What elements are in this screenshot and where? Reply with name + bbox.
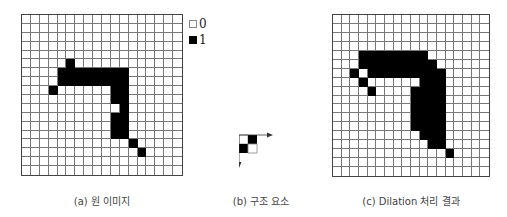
pixel-cell: [146, 59, 155, 68]
pixel-cell: [164, 148, 173, 157]
pixel-cell: [58, 131, 67, 140]
pixel-cell: [31, 59, 40, 68]
pixel-cell: [472, 69, 481, 78]
pixel-cell: [49, 24, 58, 33]
pixel-cell: [40, 42, 49, 51]
pixel-cell: [368, 33, 377, 42]
pixel-cell: [394, 167, 403, 176]
pixel-cell: [49, 42, 58, 51]
pixel-cell: [66, 113, 75, 122]
pixel-cell: [173, 68, 182, 77]
pixel-cell: [359, 87, 368, 96]
pixel-cell: [463, 113, 472, 122]
pixel-cell: [111, 104, 120, 113]
pixel-cell: [31, 104, 40, 113]
pixel-cell: [173, 51, 182, 60]
pixel-cell: [420, 87, 429, 96]
pixel-cell: [58, 15, 67, 24]
pixel-cell: [472, 158, 481, 167]
pixel-cell: [376, 104, 385, 113]
pixel-cell: [342, 149, 351, 158]
pixel-cell: [376, 87, 385, 96]
pixel-cell: [333, 131, 342, 140]
pixel-cell: [437, 149, 446, 158]
pixel-cell: [385, 42, 394, 51]
pixel-cell: [129, 113, 138, 122]
pixel-cell: [22, 139, 31, 148]
pixel-cell: [66, 131, 75, 140]
pixel-cell: [394, 122, 403, 131]
pixel-cell: [66, 139, 75, 148]
pixel-cell: [350, 42, 359, 51]
pixel-cell: [138, 122, 147, 131]
pixel-cell: [102, 33, 111, 42]
pixel-cell: [394, 158, 403, 167]
pixel-cell: [411, 122, 420, 131]
pixel-cell: [368, 60, 377, 69]
pixel-cell: [49, 104, 58, 113]
pixel-cell: [120, 166, 129, 175]
pixel-cell: [480, 140, 489, 149]
pixel-cell: [385, 113, 394, 122]
pixel-cell: [480, 78, 489, 87]
pixel-cell: [66, 104, 75, 113]
pixel-cell: [75, 157, 84, 166]
pixel-cell: [411, 87, 420, 96]
pixel-cell: [411, 15, 420, 24]
legend: 0 1: [189, 16, 207, 48]
pixel-cell: [49, 113, 58, 122]
pixel-cell: [402, 78, 411, 87]
pixel-cell: [454, 131, 463, 140]
pixel-cell: [164, 139, 173, 148]
pixel-cell: [437, 51, 446, 60]
pixel-cell: [437, 33, 446, 42]
pixel-cell: [31, 131, 40, 140]
pixel-cell: [49, 68, 58, 77]
pixel-cell: [75, 68, 84, 77]
pixel-cell: [22, 122, 31, 131]
pixel-cell: [146, 15, 155, 24]
pixel-cell: [22, 15, 31, 24]
pixel-cell: [376, 69, 385, 78]
pixel-cell: [155, 104, 164, 113]
pixel-cell: [49, 77, 58, 86]
pixel-cell: [428, 122, 437, 131]
pixel-cell: [428, 33, 437, 42]
pixel-cell: [120, 113, 129, 122]
pixel-cell: [394, 42, 403, 51]
pixel-cell: [480, 24, 489, 33]
pixel-cell: [40, 77, 49, 86]
pixel-cell: [350, 33, 359, 42]
pixel-cell: [376, 140, 385, 149]
pixel-cell: [120, 95, 129, 104]
pixel-cell: [368, 131, 377, 140]
pixel-cell: [472, 131, 481, 140]
pixel-cell: [129, 15, 138, 24]
pixel-cell: [437, 113, 446, 122]
pixel-cell: [420, 131, 429, 140]
pixel-cell: [155, 86, 164, 95]
pixel-cell: [394, 51, 403, 60]
pixel-cell: [111, 166, 120, 175]
pixel-cell: [333, 113, 342, 122]
pixel-cell: [411, 140, 420, 149]
pixel-cell: [93, 59, 102, 68]
pixel-cell: [102, 51, 111, 60]
pixel-cell: [333, 51, 342, 60]
pixel-cell: [376, 42, 385, 51]
pixel-cell: [420, 60, 429, 69]
pixel-cell: [385, 87, 394, 96]
pixel-cell: [420, 42, 429, 51]
pixel-cell: [394, 15, 403, 24]
pixel-cell: [164, 24, 173, 33]
pixel-cell: [84, 139, 93, 148]
pixel-cell: [146, 131, 155, 140]
pixel-cell: [138, 59, 147, 68]
pixel-cell: [368, 104, 377, 113]
pixel-cell: [350, 87, 359, 96]
pixel-cell: [155, 122, 164, 131]
pixel-cell: [40, 104, 49, 113]
pixel-cell: [84, 42, 93, 51]
pixel-cell: [66, 148, 75, 157]
pixel-cell: [359, 122, 368, 131]
